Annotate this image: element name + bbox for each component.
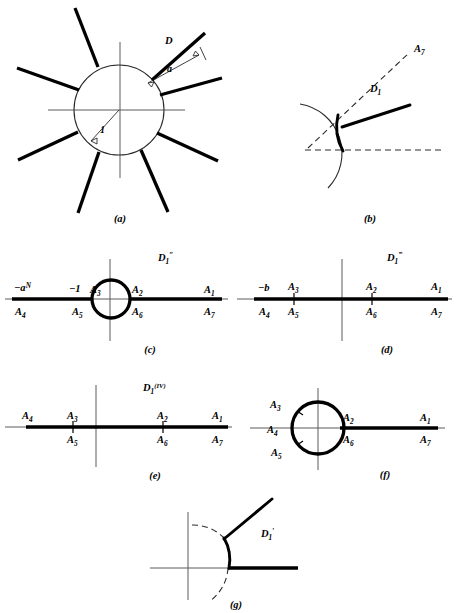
- panel-b-caption: (b): [364, 213, 376, 225]
- panel-f-label-A1: A1: [419, 412, 431, 426]
- panel-b-dashed-ray: [308, 52, 410, 148]
- panel-a-gap-dimension: [148, 47, 206, 87]
- panel-c-label-A6: A6: [131, 306, 143, 320]
- panel-g: D1′ (g): [140, 490, 340, 613]
- panel-c-label-A2: A2: [131, 284, 143, 298]
- panel-e-label-A1: A1: [211, 410, 223, 424]
- panel-d-label-A7: A7: [430, 306, 442, 320]
- panel-c: −aN −1 A3 A2 A1 A4 A5 A6 A7 D1″ (c): [0, 243, 240, 368]
- panel-a: D a 1 (a): [0, 0, 245, 230]
- panel-d-label-A6: A6: [365, 306, 377, 320]
- panel-b-label-D1: D1: [369, 83, 381, 97]
- panel-a-caption: (a): [114, 213, 126, 225]
- panel-e: A4 A3 A2 A1 A5 A6 A7 D1(IV) (e): [0, 375, 240, 495]
- panel-b-label-A7: A7: [413, 43, 425, 57]
- panel-c-label-minus-aN: −aN: [14, 281, 32, 294]
- panel-c-label-A7: A7: [203, 306, 215, 320]
- panel-g-bold-arc: [224, 538, 230, 568]
- panel-a-label-a: a: [167, 63, 172, 74]
- panel-e-label-A6: A6: [156, 434, 168, 448]
- panel-b: A7 D1 (b): [250, 20, 455, 230]
- panel-b-bold-spoke: [342, 105, 410, 127]
- panel-g-caption: (g): [230, 599, 242, 611]
- panel-d-label-minus-b: −b: [258, 282, 270, 293]
- figure-container: D a 1 (a) A7 D1 (b): [0, 0, 459, 613]
- panel-e-label-A7: A7: [211, 434, 223, 448]
- panel-c-label-A4: A4: [14, 306, 26, 320]
- panel-d-label-A5: A5: [287, 306, 299, 320]
- panel-d-label-A2: A2: [365, 281, 377, 295]
- panel-e-label-A3: A3: [66, 410, 78, 424]
- panel-a-label-radius: 1: [100, 124, 105, 135]
- panel-g-dashed-arc-upper: [192, 525, 226, 540]
- panel-f: A3 A4 A5 A2 A6 A1 A7 (f): [240, 375, 459, 495]
- panel-a-radius-leader: [91, 110, 119, 144]
- panel-g-label-domain: D1′: [260, 527, 274, 542]
- panel-d-label-A3: A3: [287, 281, 299, 295]
- panel-c-label-domain: D1″: [157, 251, 173, 266]
- panel-f-label-A4: A4: [266, 424, 278, 438]
- panel-f-label-A3: A3: [269, 399, 281, 413]
- panel-g-dashed-arc-lower: [210, 568, 228, 601]
- panel-e-label-A2: A2: [156, 410, 168, 424]
- panel-b-bold-arc: [337, 115, 343, 151]
- panel-f-caption: (f): [380, 469, 391, 481]
- panel-c-caption: (c): [144, 344, 156, 356]
- panel-a-label-D: D: [164, 35, 173, 46]
- panel-d: −b A3 A2 A1 A4 A5 A6 A7 D1‴ (d): [232, 243, 459, 368]
- panel-e-caption: (e): [149, 470, 161, 482]
- panel-f-label-A6: A6: [342, 434, 354, 448]
- panel-c-label-minus-one: −1: [69, 283, 81, 294]
- panel-d-caption: (d): [381, 344, 393, 356]
- panel-c-label-A1: A1: [203, 284, 215, 298]
- panel-f-label-A5: A5: [270, 447, 282, 461]
- panel-e-label-domain: D1(IV): [142, 382, 166, 396]
- panel-b-thin-arc: [300, 104, 342, 188]
- panel-c-label-A5: A5: [71, 306, 83, 320]
- panel-d-label-domain: D1‴: [386, 251, 403, 266]
- panel-d-label-A1: A1: [430, 281, 442, 295]
- panel-e-label-A4: A4: [21, 410, 33, 424]
- panel-f-label-A7: A7: [419, 434, 431, 448]
- panel-e-label-A5: A5: [66, 434, 78, 448]
- panel-d-label-A4: A4: [258, 306, 270, 320]
